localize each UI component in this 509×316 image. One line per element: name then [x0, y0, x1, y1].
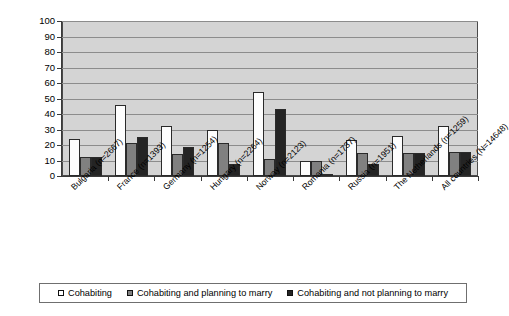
- plot-area: [62, 21, 478, 176]
- y-tick-label: 30: [44, 125, 55, 135]
- x-tick-mark: [108, 177, 109, 181]
- x-tick-mark: [247, 177, 248, 181]
- x-tick-mark: [293, 177, 294, 181]
- legend-label: Cohabiting and not planning to marry: [297, 288, 448, 298]
- x-tick-mark: [154, 177, 155, 181]
- legend-label: Cohabiting and planning to marry: [137, 288, 272, 298]
- legend-swatch-icon: [287, 290, 293, 296]
- legend-swatch-icon: [127, 290, 133, 296]
- bar: [392, 136, 403, 176]
- legend-item-not-planning-to-marry: Cohabiting and not planning to marry: [287, 288, 448, 298]
- y-tick-label: 90: [44, 32, 55, 42]
- x-tick-mark: [339, 177, 340, 181]
- y-tick-label: 100: [39, 16, 55, 26]
- bar: [300, 161, 311, 177]
- x-tick-mark: [432, 177, 433, 181]
- legend-swatch-icon: [58, 290, 64, 296]
- y-tick-label: 80: [44, 47, 55, 57]
- bar: [69, 139, 80, 176]
- chart-legend: Cohabiting Cohabiting and planning to ma…: [39, 283, 467, 303]
- legend-item-cohabiting: Cohabiting: [58, 288, 112, 298]
- y-tick-label: 40: [44, 109, 55, 119]
- y-tick-label: 20: [44, 140, 55, 150]
- y-tick-label: 70: [44, 63, 55, 73]
- legend-item-planning-to-marry: Cohabiting and planning to marry: [127, 288, 272, 298]
- y-tick-label: 0: [50, 171, 55, 181]
- y-axis-line: [61, 21, 62, 177]
- bar: [253, 92, 264, 176]
- x-tick-mark: [386, 177, 387, 181]
- y-axis-labels: 0102030405060708090100: [0, 0, 61, 200]
- y-tick-label: 60: [44, 78, 55, 88]
- legend-label: Cohabiting: [68, 288, 112, 298]
- x-tick-mark: [201, 177, 202, 181]
- x-tick-mark: [478, 177, 479, 181]
- y-tick-label: 50: [44, 94, 55, 104]
- y-tick-label: 10: [44, 156, 55, 166]
